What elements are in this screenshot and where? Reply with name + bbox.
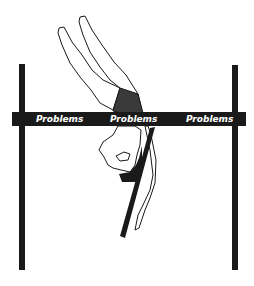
bar-label-right: Problems (186, 113, 233, 125)
illustration-canvas (0, 0, 254, 286)
right-pole (232, 65, 238, 270)
left-pole (19, 64, 25, 270)
high-jump-illustration: Problems Problems Problems (0, 0, 254, 286)
bar-label-left: Problems (36, 113, 83, 125)
bar-label-center: Problems (110, 113, 157, 125)
